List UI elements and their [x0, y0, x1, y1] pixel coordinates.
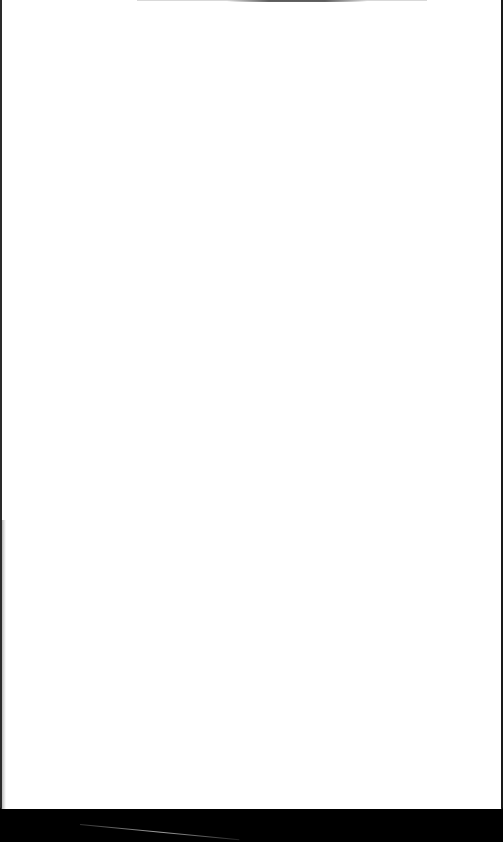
dark-background — [0, 809, 503, 842]
photo-scene — [0, 0, 503, 842]
top-edge-shadow — [227, 0, 367, 2]
blank-paper-sheet — [0, 0, 503, 809]
left-edge-shade — [2, 520, 6, 810]
